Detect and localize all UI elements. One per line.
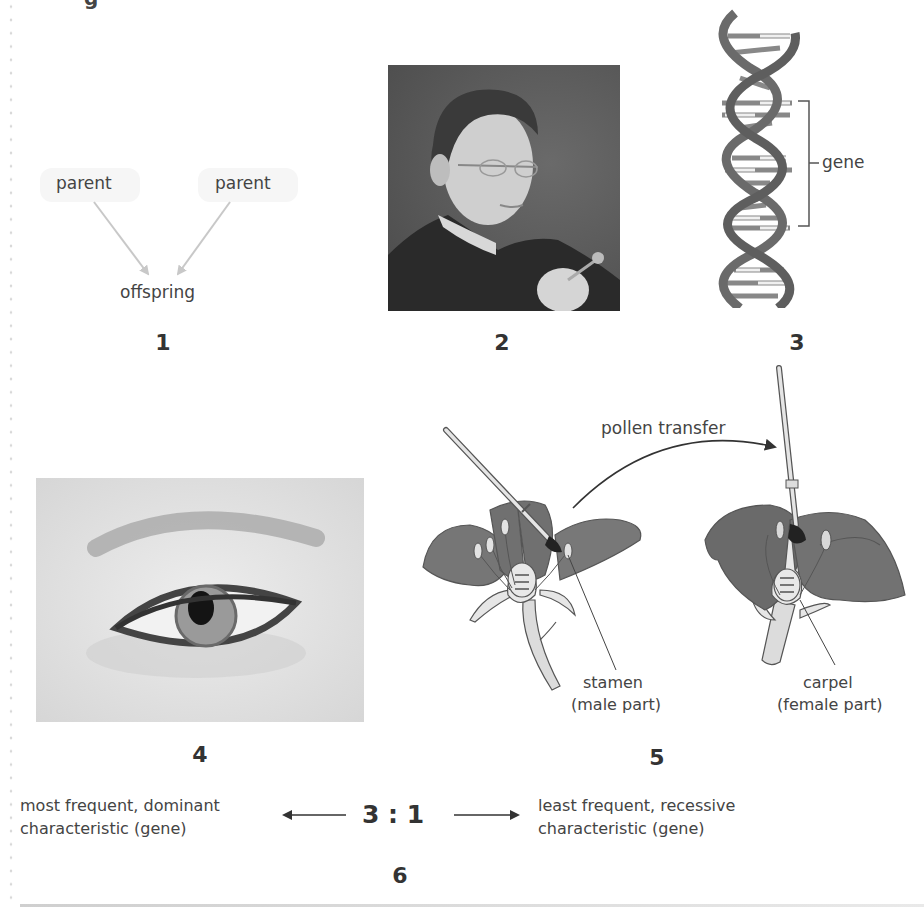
portrait-photo xyxy=(388,65,620,311)
recessive-line-2: characteristic (gene) xyxy=(538,818,704,840)
panel-number: 3 xyxy=(777,330,817,355)
dominant-line-1: most frequent, dominant xyxy=(20,795,220,817)
arrow-right-icon xyxy=(452,805,522,825)
recessive-line-1: least frequent, recessive xyxy=(538,795,735,817)
arrow-left-icon xyxy=(280,805,350,825)
inheritance-arrows-icon xyxy=(0,0,320,320)
gene-label: gene xyxy=(822,152,864,172)
carpel-label: carpel xyxy=(803,672,853,694)
panel-number: 1 xyxy=(143,330,183,355)
stamen-note: (male part) xyxy=(571,694,661,716)
portrait-icon xyxy=(388,65,620,311)
pollen-transfer-label: pollen transfer xyxy=(601,418,725,438)
bottom-rule xyxy=(20,904,924,907)
pollination-illustration-icon xyxy=(410,360,924,700)
carpel-note: (female part) xyxy=(777,694,883,716)
offspring-label: offspring xyxy=(120,282,195,302)
eye-photo xyxy=(36,478,364,722)
dna-helix-icon xyxy=(700,8,810,308)
panel-number: 4 xyxy=(180,742,220,767)
gene-bracket-icon xyxy=(795,95,825,235)
stamen-label: stamen xyxy=(583,672,643,694)
panel-number: 5 xyxy=(637,745,677,770)
ratio-value: 3 : 1 xyxy=(362,800,424,829)
panel-number: 2 xyxy=(482,330,522,355)
panel-number: 6 xyxy=(380,863,420,888)
dominant-line-2: characteristic (gene) xyxy=(20,818,186,840)
eye-icon xyxy=(36,478,364,722)
